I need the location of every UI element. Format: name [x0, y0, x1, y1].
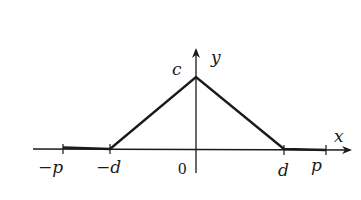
function-curve [63, 77, 326, 150]
x-axis-label: x [334, 126, 344, 146]
neg-p-label: −p [38, 157, 63, 177]
pos-d-label: d [278, 160, 289, 180]
neg-d-label: −d [96, 157, 121, 177]
pos-p-label: p [311, 155, 322, 175]
origin-label: 0 [178, 159, 187, 178]
y-axis-label: y [210, 47, 221, 67]
peak-label: c [172, 59, 182, 79]
triangular-pulse-diagram: c y x −p −d 0 d p [0, 0, 361, 200]
